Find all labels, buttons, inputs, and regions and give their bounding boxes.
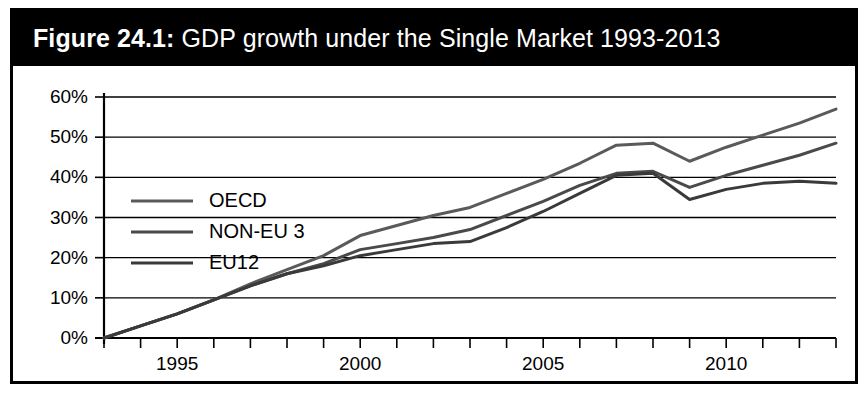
y-axis-tick-label: 40%: [50, 166, 88, 187]
y-axis-tick-label: 60%: [50, 86, 88, 107]
figure-root: Figure 24.1: GDP growth under the Single…: [0, 0, 866, 394]
legend-label-eu12: EU12: [209, 251, 259, 273]
figure-number: Figure 24.1:: [33, 24, 175, 52]
legend-label-oecd: OECD: [209, 189, 267, 211]
x-axis-tick-label: 2010: [705, 353, 747, 374]
x-axis-tick-label: 1995: [156, 353, 198, 374]
legend-label-non-eu-3: NON-EU 3: [209, 220, 305, 242]
figure-title-bar: Figure 24.1: GDP growth under the Single…: [13, 11, 855, 66]
x-axis-tick-label: 2005: [522, 353, 564, 374]
y-axis-tick-label: 20%: [50, 247, 88, 268]
y-axis-tick-label: 30%: [50, 207, 88, 228]
y-axis-tick-label: 10%: [50, 287, 88, 308]
x-axis-tick-label: 2000: [339, 353, 381, 374]
chart-plot-panel: 0%10%20%30%40%50%60%1995200020052010OECD…: [13, 66, 855, 381]
line-chart: 0%10%20%30%40%50%60%1995200020052010OECD…: [13, 66, 855, 381]
y-axis-tick-label: 0%: [61, 327, 89, 348]
figure-title-text: GDP growth under the Single Market 1993-…: [175, 24, 721, 52]
page-title: Figure 24.1: GDP growth under the Single…: [33, 24, 721, 53]
y-axis-tick-label: 50%: [50, 126, 88, 147]
